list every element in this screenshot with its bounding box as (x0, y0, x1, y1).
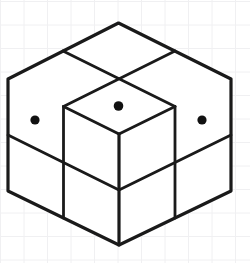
dot-top-face (114, 101, 124, 111)
figure-canvas (0, 0, 250, 263)
dot-left-face (30, 115, 39, 124)
dot-right-face (197, 115, 206, 124)
isometric-cube-drawing (0, 0, 250, 263)
